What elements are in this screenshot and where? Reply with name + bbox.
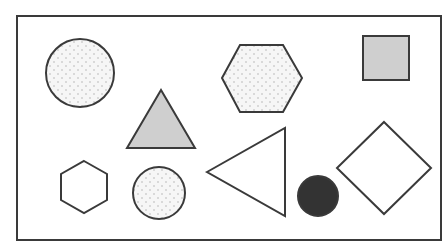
dotted-hexagon (222, 45, 302, 112)
gray-triangle (127, 90, 195, 148)
diamond (337, 122, 431, 214)
outline-triangle (207, 128, 285, 216)
shapes-layer (46, 36, 431, 219)
black-circle (298, 176, 338, 216)
gray-square (363, 36, 409, 80)
shapes-diagram (0, 0, 448, 251)
large-dotted-circle (46, 39, 114, 107)
small-dotted-circle (133, 167, 185, 219)
small-hexagon (61, 161, 107, 213)
